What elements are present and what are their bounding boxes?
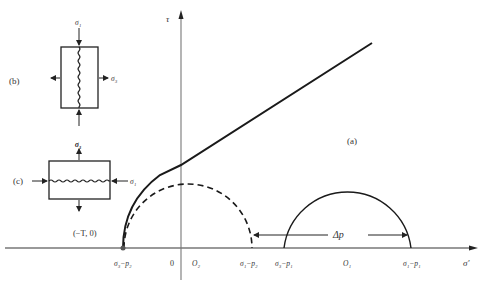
panel-label-b: (b)	[9, 76, 20, 86]
tensile-point	[121, 246, 126, 251]
origin-label: 0	[170, 259, 174, 268]
tau-axis-arrow-icon	[179, 10, 184, 19]
tick-O1: O₁	[343, 259, 351, 268]
failure-envelope	[123, 43, 372, 248]
tick-s1-minus-p1: σ₁−p₁	[403, 259, 421, 268]
delta-p-indicator: Δp	[254, 229, 407, 240]
inset-c-side-load: σ₁	[130, 177, 137, 186]
tick-O2: O₂	[192, 259, 200, 268]
inset-b-side-load: σ₃	[111, 74, 118, 83]
tensile-point-label: (−T, 0)	[73, 228, 97, 238]
mohr-circle-dashed	[124, 184, 252, 248]
tau-axis-label: τ	[166, 14, 170, 24]
panel-label-c: (c)	[13, 176, 23, 186]
vertical-crack	[78, 47, 80, 108]
axis-tick-labels: σ₃−p₂ O₂ σ₁−p₂ σ₃−p₁ O₁ σ₁−p₁	[114, 259, 421, 268]
inset-c-top-load: σ₃	[75, 140, 82, 149]
sigma-axis-label: σ′	[463, 258, 470, 268]
inset-b-top-load: σ₁	[75, 18, 82, 27]
delta-p-label: Δp	[332, 229, 344, 240]
mohr-circle-solid	[284, 192, 411, 248]
inset-b: (b) σ₁ σ₁ σ₃	[9, 18, 118, 149]
mohr-circle-diagram: τ σ′ 0 (−T, 0) Δp σ₃−p₂ O₂ σ₁−p₂ σ₃−p₁ O…	[0, 0, 481, 287]
panel-label-a: (a)	[347, 136, 357, 146]
tick-s3-minus-p2: σ₃−p₂	[114, 259, 132, 268]
sigma-axis-arrow-icon	[469, 246, 478, 251]
tick-s1-minus-p2: σ₁−p₂	[240, 259, 258, 268]
horizontal-crack	[49, 180, 110, 182]
inset-c: (c) σ₃ σ₁	[13, 140, 137, 211]
tick-s3-minus-p1: σ₃−p₁	[275, 259, 293, 268]
